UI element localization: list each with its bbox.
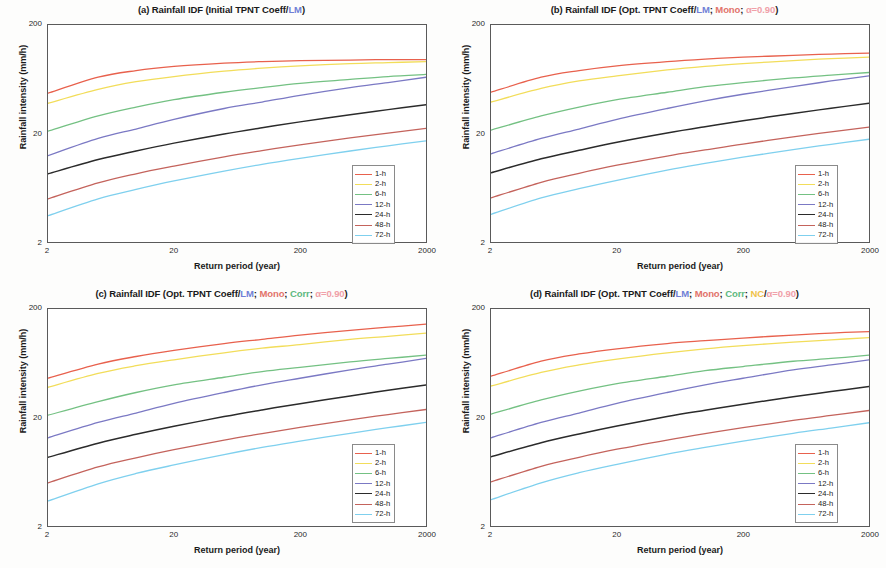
legend-label: 24-h — [375, 489, 390, 499]
ytick-200: 200 — [445, 303, 485, 312]
legend-item-72-h[interactable]: 72-h — [798, 230, 833, 240]
legend-label: 1-h — [375, 169, 386, 179]
legend-label: 2-h — [818, 179, 829, 189]
panel-c: (c) Rainfall IDF (Opt. TPNT Coeff/LM; Mo… — [0, 284, 443, 568]
panel-a-ylabel: Rainfall intensity (mm/h) — [18, 22, 28, 172]
legend-item-48-h[interactable]: 48-h — [798, 499, 833, 509]
legend-item-12-h[interactable]: 12-h — [798, 479, 833, 489]
legend-item-24-h[interactable]: 24-h — [798, 210, 833, 220]
legend-item-72-h[interactable]: 72-h — [355, 230, 390, 240]
legend-item-24-h[interactable]: 24-h — [355, 210, 390, 220]
legend-label: 12-h — [818, 200, 833, 210]
panel-d: (d) Rainfall IDF (Opt. TPNT Coeff/LM; Mo… — [443, 284, 886, 568]
legend-item-24-h[interactable]: 24-h — [355, 489, 390, 499]
legend-item-2-h[interactable]: 2-h — [798, 458, 833, 468]
legend-swatch-48-h — [355, 504, 372, 505]
xtick-2000: 2000 — [850, 246, 886, 255]
series-line-6-h — [491, 72, 869, 130]
legend-swatch-24-h — [355, 493, 372, 494]
title-token-plain: ) — [345, 288, 348, 299]
panel-c-title: (c) Rainfall IDF (Opt. TPNT Coeff/LM; Mo… — [0, 288, 443, 299]
legend-swatch-2-h — [798, 184, 815, 185]
legend-label: 1-h — [818, 169, 829, 179]
series-line-2-h — [491, 338, 869, 386]
legend-item-2-h[interactable]: 2-h — [355, 179, 390, 189]
ytick-20: 20 — [445, 129, 485, 138]
title-token-nc: NC — [750, 288, 764, 299]
title-token-plain: ) — [302, 4, 305, 15]
legend-swatch-1-h — [355, 174, 372, 175]
panel-c-xlabel: Return period (year) — [47, 545, 427, 555]
panel-a-legend: 1-h2-h6-h12-h24-h48-h72-h — [352, 165, 395, 244]
legend-item-72-h[interactable]: 72-h — [355, 509, 390, 519]
title-token-plain: (c) Rainfall IDF (Opt. TPNT Coeff/ — [95, 288, 240, 299]
legend-label: 12-h — [375, 479, 390, 489]
panel-b-ylabel: Rainfall intensity (mm/h) — [461, 22, 471, 172]
panel-d-xlabel: Return period (year) — [490, 545, 870, 555]
panel-d-legend: 1-h2-h6-h12-h24-h48-h72-h — [795, 444, 838, 523]
legend-swatch-1-h — [355, 453, 372, 454]
legend-swatch-48-h — [355, 225, 372, 226]
legend-item-48-h[interactable]: 48-h — [355, 499, 390, 509]
title-token-lm: LM — [696, 4, 710, 15]
legend-item-6-h[interactable]: 6-h — [798, 468, 833, 478]
legend-swatch-48-h — [798, 504, 815, 505]
series-line-2-h — [491, 57, 869, 102]
series-line-6-h — [48, 74, 426, 131]
legend-label: 12-h — [375, 200, 390, 210]
legend-item-2-h[interactable]: 2-h — [798, 179, 833, 189]
legend-item-6-h[interactable]: 6-h — [798, 189, 833, 199]
legend-label: 72-h — [375, 230, 390, 240]
title-token-lm: LM — [676, 288, 690, 299]
legend-item-2-h[interactable]: 2-h — [355, 458, 390, 468]
legend-item-48-h[interactable]: 48-h — [798, 220, 833, 230]
ytick-20: 20 — [2, 413, 42, 422]
legend-label: 6-h — [818, 189, 829, 199]
legend-swatch-48-h — [798, 225, 815, 226]
legend-swatch-2-h — [355, 184, 372, 185]
legend-item-72-h[interactable]: 72-h — [798, 509, 833, 519]
title-token-alpha: α=0.90 — [767, 288, 796, 299]
title-token-mono: Mono — [259, 288, 284, 299]
legend-swatch-72-h — [355, 235, 372, 236]
series-line-12-h — [48, 77, 426, 155]
legend-item-48-h[interactable]: 48-h — [355, 220, 390, 230]
legend-item-1-h[interactable]: 1-h — [798, 169, 833, 179]
legend-item-6-h[interactable]: 6-h — [355, 468, 390, 478]
legend-item-24-h[interactable]: 24-h — [798, 489, 833, 499]
series-line-6-h — [491, 355, 869, 414]
xtick-20: 20 — [154, 246, 194, 255]
title-token-lm: LM — [240, 288, 254, 299]
legend-item-6-h[interactable]: 6-h — [355, 189, 390, 199]
title-token-plain: ) — [796, 288, 799, 299]
legend-label: 2-h — [375, 179, 386, 189]
legend-item-1-h[interactable]: 1-h — [355, 169, 390, 179]
legend-swatch-72-h — [798, 514, 815, 515]
title-token-alpha: α=0.90 — [746, 4, 775, 15]
series-line-12-h — [48, 358, 426, 437]
legend-label: 72-h — [818, 509, 833, 519]
legend-item-1-h[interactable]: 1-h — [798, 448, 833, 458]
panel-d-title: (d) Rainfall IDF (Opt. TPNT Coeff/LM; Mo… — [443, 288, 886, 299]
legend-item-1-h[interactable]: 1-h — [355, 448, 390, 458]
legend-item-12-h[interactable]: 12-h — [355, 479, 390, 489]
xtick-20: 20 — [154, 530, 194, 539]
legend-swatch-12-h — [355, 204, 372, 205]
xtick-2000: 2000 — [407, 246, 447, 255]
ytick-20: 20 — [2, 129, 42, 138]
title-token-plain: (d) Rainfall IDF (Opt. TPNT Coeff/ — [530, 288, 675, 299]
legend-swatch-1-h — [798, 174, 815, 175]
legend-swatch-1-h — [798, 453, 815, 454]
panel-a: (a) Rainfall IDF (Initial TPNT Coeff/LM)… — [0, 0, 443, 284]
series-line-6-h — [48, 355, 426, 415]
legend-label: 48-h — [818, 499, 833, 509]
legend-swatch-24-h — [798, 214, 815, 215]
legend-item-12-h[interactable]: 12-h — [798, 200, 833, 210]
xtick-200: 200 — [723, 530, 763, 539]
legend-item-12-h[interactable]: 12-h — [355, 200, 390, 210]
xtick-2000: 2000 — [850, 530, 886, 539]
ytick-200: 200 — [2, 19, 42, 28]
xtick-200: 200 — [723, 246, 763, 255]
legend-swatch-72-h — [355, 514, 372, 515]
legend-swatch-6-h — [355, 194, 372, 195]
